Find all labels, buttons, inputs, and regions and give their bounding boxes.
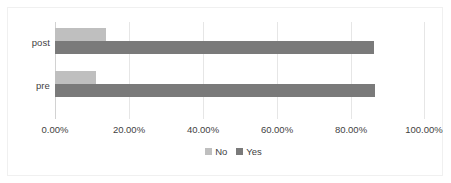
gridline-100: [424, 22, 425, 119]
gridline-60: [277, 22, 278, 119]
bar-pre-yes[interactable]: [55, 84, 375, 97]
plot-area: [55, 22, 425, 119]
x-tick-label-20: 20.00%: [99, 124, 159, 135]
x-tick-label-100: 100.00%: [394, 124, 451, 135]
x-tick-label-60: 60.00%: [247, 124, 307, 135]
bar-post-no[interactable]: [55, 28, 106, 41]
legend-label-yes: Yes: [246, 147, 262, 157]
bar-post-yes[interactable]: [55, 41, 374, 54]
legend-item-no[interactable]: No: [205, 147, 227, 157]
x-tick-label-0: 0.00%: [25, 124, 85, 135]
x-tick-label-80: 80.00%: [321, 124, 381, 135]
category-label-post: post: [12, 37, 50, 48]
bar-pre-no[interactable]: [55, 71, 96, 84]
category-axis: post pre: [8, 22, 50, 119]
gridline-80: [351, 22, 352, 119]
legend-swatch-icon-yes: [236, 148, 243, 155]
category-label-pre: pre: [12, 80, 50, 91]
legend-item-yes[interactable]: Yes: [236, 147, 262, 157]
legend-label-no: No: [215, 147, 227, 157]
chart-container: post pre 0.00% 20.00% 40.00% 60.00% 80.0…: [7, 7, 443, 176]
gridline-20: [129, 22, 130, 119]
legend-swatch-icon-no: [205, 148, 212, 155]
chart-legend: No Yes: [8, 147, 451, 157]
value-axis: 0.00% 20.00% 40.00% 60.00% 80.00% 100.00…: [55, 124, 425, 138]
gridline-40: [203, 22, 204, 119]
x-tick-label-40: 40.00%: [173, 124, 233, 135]
